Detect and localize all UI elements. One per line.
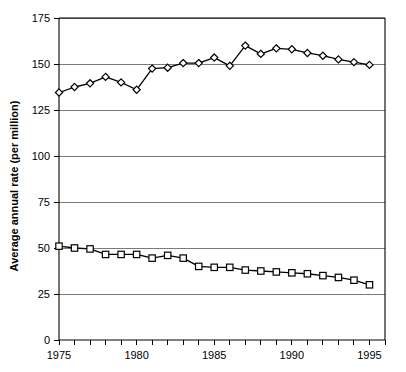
- data-point-marker: [87, 246, 93, 252]
- y-tick-label: 50: [38, 242, 50, 254]
- data-point-marker: [196, 263, 202, 269]
- data-point-marker: [56, 243, 62, 249]
- data-point-marker: [227, 264, 233, 270]
- y-tick-label: 100: [32, 150, 50, 162]
- data-point-marker: [195, 59, 202, 66]
- y-axis-title: Average annual rate (per million): [8, 100, 20, 271]
- data-point-marker: [319, 52, 326, 59]
- x-axis-tick-labels: 19751980198519901995: [47, 349, 382, 361]
- y-tick-label: 0: [44, 334, 50, 346]
- data-point-marker: [86, 80, 93, 87]
- data-point-marker: [273, 269, 279, 275]
- y-axis-tick-labels: 0255075100125150175: [32, 12, 50, 346]
- data-point-marker: [102, 251, 108, 257]
- y-tick-label: 175: [32, 12, 50, 24]
- data-point-marker: [149, 255, 155, 261]
- data-point-marker: [118, 251, 124, 257]
- data-point-marker: [164, 252, 170, 258]
- data-point-marker: [273, 45, 280, 52]
- data-point-marker: [211, 54, 218, 61]
- y-tick-label: 25: [38, 288, 50, 300]
- y-tick-label: 150: [32, 58, 50, 70]
- data-point-marker: [180, 255, 186, 261]
- data-point-marker: [350, 59, 357, 66]
- data-point-marker: [242, 267, 248, 273]
- x-axis-ticks: [59, 340, 385, 345]
- x-tick-label: 1975: [47, 349, 71, 361]
- data-point-marker: [289, 270, 295, 276]
- y-tick-label: 125: [32, 104, 50, 116]
- data-point-marker: [133, 251, 139, 257]
- data-point-marker: [55, 89, 62, 96]
- data-point-marker: [117, 79, 124, 86]
- data-point-marker: [102, 73, 109, 80]
- data-point-marker: [351, 277, 357, 283]
- data-point-marker: [71, 83, 78, 90]
- data-point-marker: [304, 271, 310, 277]
- y-tick-label: 75: [38, 196, 50, 208]
- chart-container: 0255075100125150175 19751980198519901995…: [0, 0, 406, 372]
- data-point-marker: [304, 49, 311, 56]
- x-tick-label: 1995: [357, 349, 381, 361]
- data-point-marker: [366, 282, 372, 288]
- data-point-marker: [257, 50, 264, 57]
- data-point-marker: [335, 56, 342, 63]
- data-point-marker: [164, 64, 171, 71]
- data-point-marker: [180, 59, 187, 66]
- x-tick-label: 1990: [280, 349, 304, 361]
- line-chart: 0255075100125150175 19751980198519901995…: [0, 0, 406, 372]
- data-point-marker: [211, 264, 217, 270]
- data-point-marker: [288, 46, 295, 53]
- x-tick-label: 1980: [124, 349, 148, 361]
- series-lower: [56, 243, 373, 288]
- x-tick-label: 1985: [202, 349, 226, 361]
- data-point-marker: [335, 274, 341, 280]
- data-point-marker: [71, 245, 77, 251]
- data-point-marker: [320, 272, 326, 278]
- series-upper: [55, 42, 373, 96]
- plot-frame: [59, 18, 385, 340]
- data-point-marker: [366, 61, 373, 68]
- y-axis-ticks: [54, 18, 59, 340]
- data-point-marker: [258, 268, 264, 274]
